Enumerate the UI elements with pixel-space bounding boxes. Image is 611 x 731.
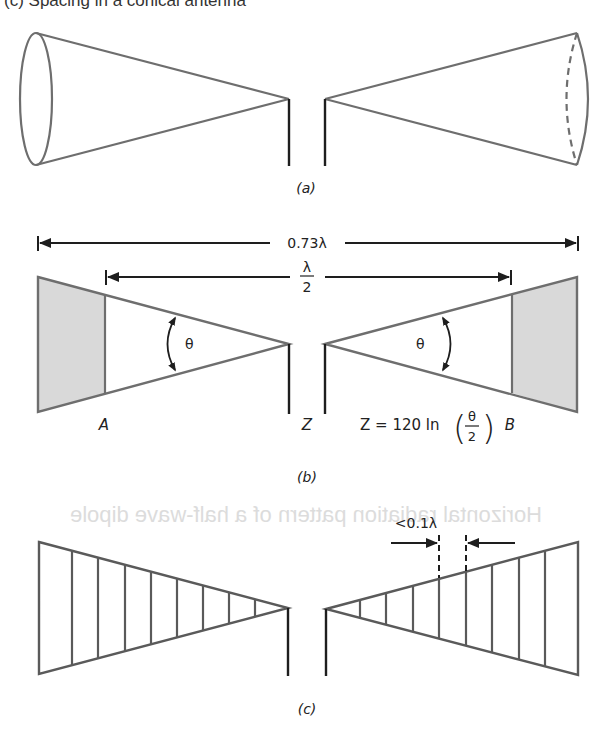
angle-arrow-left — [168, 318, 176, 370]
part-b-bowtie: 0.73λ λ 2 θ θ A Z Z = — [38, 235, 578, 485]
theta-left: θ — [185, 336, 194, 352]
formula-numerator: θ — [468, 409, 476, 424]
left-cone-rim — [20, 33, 52, 165]
part-b-label: (b) — [297, 469, 317, 485]
part-c-wire-cage: <0.1λ (c) — [39, 515, 578, 717]
right-cone-rim-hidden — [567, 33, 578, 165]
overall-length-label: 0.73λ — [287, 235, 326, 251]
right-wire-elements — [360, 551, 545, 667]
half-wave-numerator: λ — [303, 259, 311, 275]
part-a-biconical: (a) — [20, 33, 588, 196]
point-b-label: B — [505, 416, 515, 434]
angle-arrow-right — [443, 318, 451, 370]
half-wave-denominator: 2 — [303, 279, 312, 295]
left-wire-elements — [72, 551, 255, 665]
right-paren: ) — [482, 408, 495, 448]
formula-denominator: 2 — [468, 429, 476, 444]
part-c-label: (c) — [298, 701, 317, 717]
point-a-label: A — [98, 416, 109, 434]
left-paren: ( — [453, 408, 466, 448]
part-a-label: (a) — [296, 180, 316, 196]
right-cone-rim-front — [577, 33, 588, 165]
figure-page: (c) Spacing in a conical antenna Horizon… — [0, 0, 611, 731]
theta-right: θ — [416, 336, 425, 352]
feed-z-label: Z — [301, 416, 313, 434]
antenna-diagram: (a) 0.73λ λ 2 θ — [0, 0, 611, 731]
impedance-formula: Z = 120 ln — [360, 416, 439, 434]
spacing-label: <0.1λ — [395, 515, 437, 531]
